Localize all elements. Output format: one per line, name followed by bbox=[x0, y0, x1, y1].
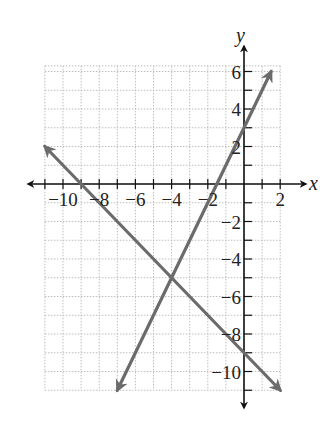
x-tick-label: −8 bbox=[89, 189, 109, 210]
y-tick-label: −2 bbox=[221, 212, 241, 233]
plotted-lines bbox=[45, 72, 280, 391]
y-tick-label: 2 bbox=[232, 137, 242, 158]
plot-line-1 bbox=[117, 72, 271, 391]
x-tick-label: 2 bbox=[275, 189, 285, 210]
y-tick-label: 4 bbox=[232, 99, 242, 120]
y-tick-label: −10 bbox=[211, 362, 241, 383]
y-tick-label: 6 bbox=[232, 62, 242, 83]
grid bbox=[45, 66, 280, 390]
x-tick-label: −10 bbox=[48, 189, 78, 210]
x-tick-label: −2 bbox=[198, 189, 218, 210]
y-tick-label: −4 bbox=[221, 249, 242, 270]
x-axis-label: x bbox=[308, 172, 318, 194]
x-tick-label: −4 bbox=[161, 189, 182, 210]
coordinate-plane: −10−8−6−4−22642−2−4−6−8−10 x y bbox=[0, 0, 331, 426]
axes bbox=[28, 46, 306, 408]
plot-line-2 bbox=[45, 147, 280, 391]
x-tick-label: −6 bbox=[125, 189, 145, 210]
y-axis-label: y bbox=[234, 24, 245, 47]
y-tick-label: −6 bbox=[221, 287, 241, 308]
y-tick-label: −8 bbox=[221, 324, 241, 345]
